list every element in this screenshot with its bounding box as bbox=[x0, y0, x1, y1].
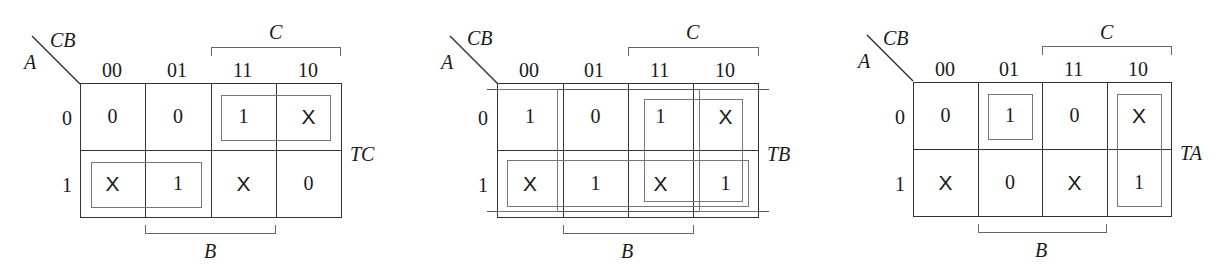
kmap-ta: CB A C 00 01 11 10 0 1 0 1 0 X X 0 X 1 T… bbox=[820, 0, 1228, 277]
b-bracket bbox=[978, 224, 1107, 233]
kmap-cell: 0 bbox=[145, 83, 211, 150]
row-header: 1 bbox=[895, 174, 905, 194]
col-header: 00 bbox=[102, 60, 122, 80]
b-bracket-label: B bbox=[204, 241, 216, 261]
c-bracket bbox=[211, 47, 341, 56]
kmap-cell: 0 bbox=[80, 83, 145, 150]
kmap-cell: X bbox=[1042, 149, 1107, 216]
group-loop bbox=[988, 94, 1033, 140]
grid-line bbox=[341, 83, 342, 218]
grid-line bbox=[1171, 82, 1172, 217]
row-header: 0 bbox=[895, 107, 905, 127]
c-bracket bbox=[628, 47, 759, 56]
col-header: 10 bbox=[1128, 59, 1148, 79]
row-header: 0 bbox=[62, 108, 72, 128]
row-header: 1 bbox=[478, 175, 488, 195]
b-bracket-label: B bbox=[621, 241, 633, 261]
group-loop bbox=[91, 162, 202, 208]
kmap-cell: 0 bbox=[978, 149, 1042, 216]
c-bracket-label: C bbox=[269, 22, 282, 42]
output-label: TB bbox=[767, 144, 790, 164]
kmap-cell: 0 bbox=[913, 82, 978, 149]
col-header: 01 bbox=[167, 60, 187, 80]
kmap-cell: 0 bbox=[563, 83, 628, 150]
row-vars-label: A bbox=[858, 51, 870, 71]
col-header: 00 bbox=[935, 59, 955, 79]
col-vars-label: CB bbox=[883, 28, 909, 48]
col-header: 10 bbox=[715, 60, 735, 80]
kmap-cell: X bbox=[211, 150, 276, 217]
output-label: TA bbox=[1180, 143, 1202, 163]
group-loop bbox=[221, 95, 331, 141]
col-header: 10 bbox=[298, 60, 318, 80]
c-bracket-label: C bbox=[1100, 22, 1113, 42]
kmap-cell: 0 bbox=[276, 150, 341, 217]
col-header: 11 bbox=[650, 60, 669, 80]
row-vars-label: A bbox=[441, 52, 453, 72]
c-bracket-label: C bbox=[686, 22, 699, 42]
b-bracket bbox=[563, 225, 694, 234]
kmap-cell: X bbox=[913, 149, 978, 216]
b-bracket bbox=[145, 225, 276, 234]
group-loop bbox=[1117, 94, 1162, 207]
col-header: 11 bbox=[1064, 59, 1083, 79]
col-header: 00 bbox=[519, 60, 539, 80]
row-vars-label: A bbox=[24, 52, 36, 72]
grid-line bbox=[758, 83, 759, 218]
col-header: 01 bbox=[584, 60, 604, 80]
c-bracket bbox=[1042, 46, 1172, 55]
col-vars-label: CB bbox=[50, 30, 76, 50]
group-loop bbox=[507, 160, 749, 207]
row-header: 1 bbox=[62, 175, 72, 195]
row-header: 0 bbox=[478, 108, 488, 128]
output-label: TC bbox=[350, 144, 374, 164]
col-vars-label: CB bbox=[467, 28, 493, 48]
kmap-tb: CB A C 00 01 11 10 0 1 1 0 1 X X 1 X 1 T… bbox=[410, 0, 820, 277]
col-header: 11 bbox=[233, 60, 252, 80]
kmap-tc: CB A C 00 01 11 10 0 1 0 0 1 X X 1 X 0 T… bbox=[0, 0, 410, 277]
kmap-cell: 0 bbox=[1042, 82, 1107, 149]
col-header: 01 bbox=[999, 59, 1019, 79]
b-bracket-label: B bbox=[1035, 240, 1047, 260]
